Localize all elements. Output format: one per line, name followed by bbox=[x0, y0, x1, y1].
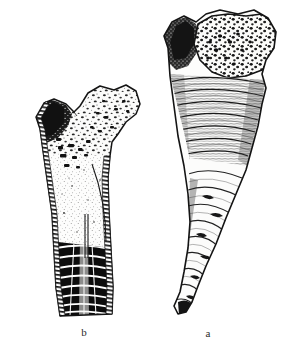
exterior-body-fill bbox=[150, 8, 295, 333]
coral-longitudinal-section-illustration bbox=[14, 82, 154, 332]
coral-exterior-view-illustration bbox=[150, 8, 295, 333]
figure-b-caption: b bbox=[72, 327, 96, 338]
figure-a-caption: a bbox=[196, 328, 220, 339]
figure-b bbox=[14, 82, 154, 332]
section-body-fill bbox=[14, 82, 154, 332]
figure-a bbox=[150, 8, 295, 333]
figure-plate: b a bbox=[0, 0, 300, 355]
